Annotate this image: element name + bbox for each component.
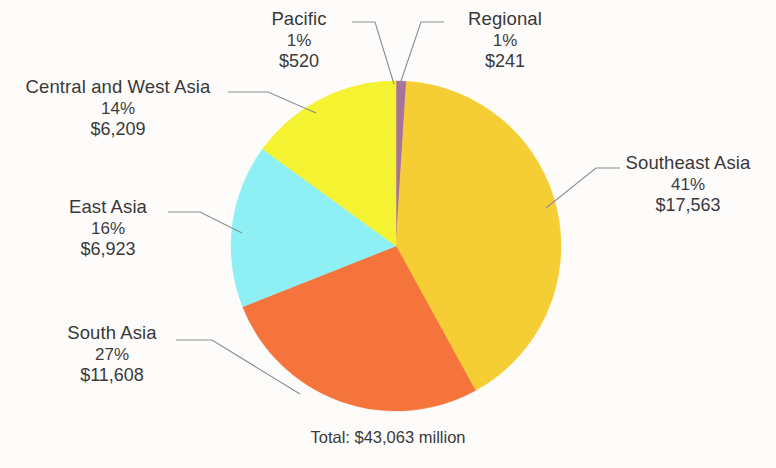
slice-label-south-asia: South Asia 27% $11,608 [22, 322, 202, 387]
slice-label-regional-percent: 1% [420, 31, 590, 52]
slice-label-pacific-value: $520 [214, 51, 384, 73]
slice-label-east-asia-name: East Asia [18, 196, 198, 219]
slice-label-central-west-asia-percent: 14% [0, 99, 238, 120]
slice-label-central-west-asia-name: Central and West Asia [0, 76, 238, 99]
slice-label-southeast-asia-percent: 41% [600, 175, 776, 196]
slice-label-central-west-asia-value: $6,209 [0, 119, 238, 141]
slice-label-central-west-asia: Central and West Asia 14% $6,209 [0, 76, 238, 141]
slice-label-pacific-name: Pacific [214, 8, 384, 31]
slice-label-east-asia-value: $6,923 [18, 239, 198, 261]
total-caption: Total: $43,063 million [0, 428, 776, 447]
slice-label-southeast-asia-name: Southeast Asia [600, 152, 776, 175]
slice-label-pacific: Pacific 1% $520 [214, 8, 384, 73]
slice-label-southeast-asia-value: $17,563 [600, 195, 776, 217]
slice-label-pacific-percent: 1% [214, 31, 384, 52]
pie-slices-group [231, 81, 561, 411]
slice-label-south-asia-value: $11,608 [22, 365, 202, 387]
slice-label-south-asia-percent: 27% [22, 345, 202, 366]
slice-label-regional: Regional 1% $241 [420, 8, 590, 73]
slice-label-regional-value: $241 [420, 51, 590, 73]
slice-label-regional-name: Regional [420, 8, 590, 31]
slice-label-east-asia-percent: 16% [18, 219, 198, 240]
pie-chart-figure: Pacific 1% $520 Regional 1% $241 Central… [0, 0, 776, 468]
slice-label-south-asia-name: South Asia [22, 322, 202, 345]
slice-label-east-asia: East Asia 16% $6,923 [18, 196, 198, 261]
slice-label-southeast-asia: Southeast Asia 41% $17,563 [600, 152, 776, 217]
